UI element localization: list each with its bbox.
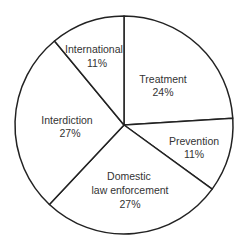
slice-label-international: International xyxy=(65,43,123,55)
slice-label-domestic-line1: Domestic xyxy=(107,170,151,182)
pie-chart: Treatment 24% Prevention 11% Domestic la… xyxy=(0,0,246,251)
slice-label-domestic-line2: law enforcement xyxy=(91,184,168,196)
slice-label-interdiction: Interdiction xyxy=(41,114,93,126)
pie-slice-treatment xyxy=(124,16,233,125)
slice-label-treatment: Treatment xyxy=(139,73,187,85)
slice-pct-interdiction: 27% xyxy=(59,127,80,139)
slice-pct-prevention: 11% xyxy=(184,148,204,160)
slice-pct-treatment: 24% xyxy=(152,86,173,98)
slice-label-prevention: Prevention xyxy=(169,135,219,147)
slice-pct-international: 11% xyxy=(87,57,107,69)
slice-pct-domestic: 27% xyxy=(119,198,140,210)
